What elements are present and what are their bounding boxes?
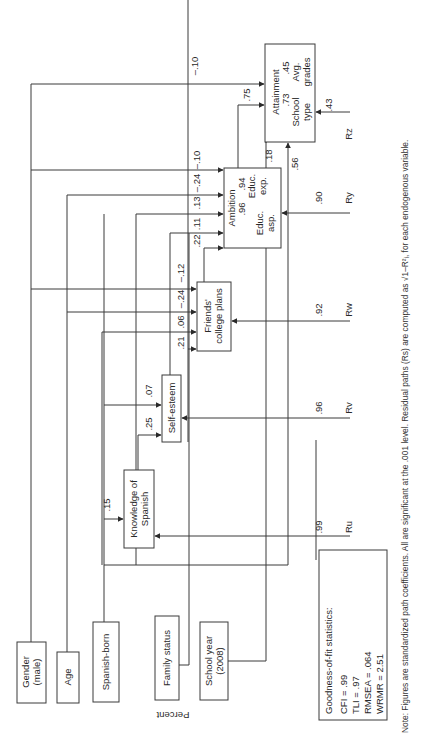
svg-text:School year: School year: [203, 636, 214, 686]
svg-text:.90: .90: [313, 191, 324, 204]
svg-text:CFI = .99: CFI = .99: [338, 675, 349, 714]
attainment-box: Attainment .73 .45 School type Avg. grad…: [265, 44, 315, 142]
knowledge-spanish-box: Knowledge of Spanish: [124, 470, 154, 548]
svg-text:.43: .43: [323, 98, 334, 111]
svg-text:–.24: –.24: [175, 290, 186, 309]
svg-text:Educ.: Educ.: [246, 174, 257, 198]
svg-text:.13: .13: [191, 196, 202, 209]
svg-text:.92: .92: [313, 303, 324, 316]
svg-text:–.12: –.12: [175, 264, 186, 283]
percent-label: Percent: [156, 710, 189, 721]
svg-text:Ru: Ru: [343, 521, 354, 533]
note-text: Note: Figures are standardized path coef…: [400, 140, 410, 733]
svg-text:type: type: [301, 103, 312, 121]
svg-text:Attainment: Attainment: [270, 69, 281, 115]
svg-text:Rz: Rz: [343, 128, 354, 140]
svg-text:Avg.: Avg.: [290, 63, 301, 82]
svg-text:WRMR = 2.51: WRMR = 2.51: [374, 654, 385, 714]
school-year-box: School year (2008): [200, 622, 228, 700]
svg-text:.06: .06: [175, 315, 186, 328]
svg-text:RMSEA = .064: RMSEA = .064: [362, 651, 373, 714]
gender-box: Gender (male): [17, 642, 46, 703]
svg-text:grades: grades: [301, 57, 312, 86]
svg-text:Knowledge of: Knowledge of: [128, 480, 139, 538]
svg-text:–.10: –.10: [191, 151, 202, 170]
svg-text:–.24: –.24: [191, 174, 202, 193]
self-esteem-box: Self-esteem: [162, 375, 181, 442]
path-diagram: Gender (male) Age Spanish-born Family st…: [0, 0, 424, 739]
svg-text:.25: .25: [143, 417, 154, 430]
svg-text:Self-esteem: Self-esteem: [166, 383, 177, 434]
svg-text:Age: Age: [62, 669, 73, 686]
spanish-born-box: Spanish-born: [93, 622, 119, 702]
svg-text:.99: .99: [313, 520, 324, 533]
svg-text:Ry: Ry: [343, 192, 354, 204]
svg-text:.56: .56: [289, 157, 300, 170]
svg-text:.18: .18: [263, 149, 274, 162]
family-status-box: Family status: [155, 616, 179, 700]
svg-text:.96: .96: [313, 401, 324, 414]
svg-text:Spanish: Spanish: [139, 492, 150, 526]
svg-text:School: School: [290, 97, 301, 126]
svg-text:Spanish-born: Spanish-born: [100, 634, 111, 691]
svg-text:.96: .96: [236, 202, 247, 215]
svg-text:Rv: Rv: [343, 402, 354, 414]
svg-text:college plans: college plans: [213, 288, 224, 344]
svg-text:.15: .15: [101, 498, 112, 511]
ambition-box: Ambition .96 .94 Educ. asp. Educ. exp.: [224, 168, 281, 248]
svg-text:.21: .21: [175, 336, 186, 349]
svg-text:Educ.: Educ.: [254, 211, 265, 235]
fit-statistics-box: Goodness-of-fit statistics: CFI = .99 TL…: [319, 550, 387, 720]
svg-text:–.10: –.10: [189, 57, 200, 76]
svg-text:exp.: exp.: [257, 177, 268, 195]
svg-text:Goodness-of-fit statistics:: Goodness-of-fit statistics:: [323, 607, 334, 714]
svg-text:.75: .75: [241, 88, 252, 101]
friends-plans-box: Friends' college plans: [197, 282, 231, 351]
svg-text:Family status: Family status: [161, 630, 172, 686]
svg-text:asp.: asp.: [265, 214, 276, 232]
svg-text:Gender: Gender: [20, 656, 31, 688]
svg-text:.07: .07: [143, 384, 154, 397]
svg-text:.22: .22: [191, 234, 202, 247]
svg-text:(male): (male): [31, 659, 42, 686]
svg-text:Rw: Rw: [343, 303, 354, 317]
age-box: Age: [57, 652, 79, 703]
svg-text:.11: .11: [191, 218, 202, 231]
svg-text:(2008): (2008): [214, 647, 225, 674]
svg-text:TLI = .97: TLI = .97: [350, 676, 361, 714]
svg-text:Friends': Friends': [202, 299, 213, 333]
